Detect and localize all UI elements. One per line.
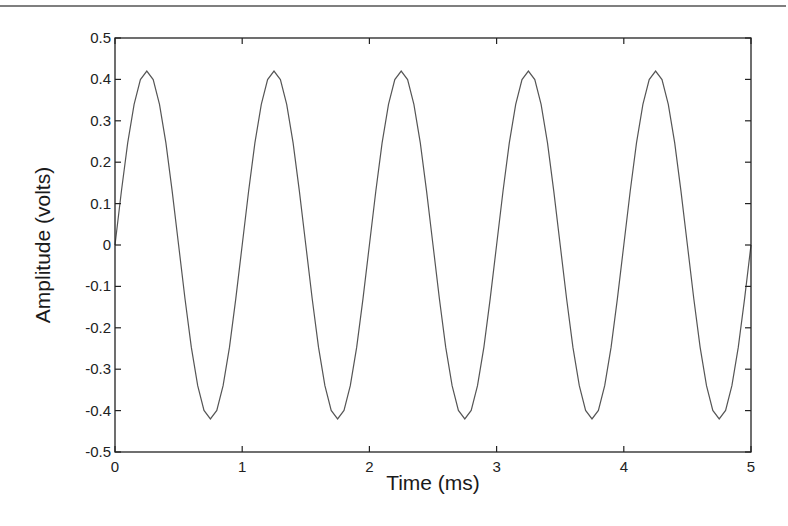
x-tick-label: 1 <box>238 458 246 475</box>
x-tick-label: 5 <box>747 458 755 475</box>
y-tick-label: 0.3 <box>90 112 111 129</box>
y-tick-label: 0.1 <box>90 195 111 212</box>
x-tick-label: 2 <box>365 458 373 475</box>
sine-series-line <box>115 71 751 419</box>
y-axis-title: Amplitude (volts) <box>31 167 54 323</box>
y-tick-label: 0.4 <box>90 70 111 87</box>
y-tick-label: -0.4 <box>85 402 111 419</box>
y-tick-label: -0.3 <box>85 360 111 377</box>
line-chart: 012345 0.50.40.30.20.10-0.1-0.2-0.3-0.4-… <box>0 0 788 526</box>
y-tick-label: -0.5 <box>85 443 111 460</box>
y-tick-label: 0.5 <box>90 29 111 46</box>
y-tick-label: 0 <box>103 236 111 253</box>
x-tick-label: 3 <box>492 458 500 475</box>
x-axis-title: Time (ms) <box>386 471 480 494</box>
x-tick-label: 4 <box>620 458 628 475</box>
y-tick-label: 0.2 <box>90 153 111 170</box>
x-tick-label: 0 <box>111 458 119 475</box>
y-axis-ticks: 0.50.40.30.20.10-0.1-0.2-0.3-0.4-0.5 <box>85 29 751 460</box>
y-tick-label: -0.1 <box>85 277 111 294</box>
plot-area: 012345 0.50.40.30.20.10-0.1-0.2-0.3-0.4-… <box>85 29 755 475</box>
y-tick-label: -0.2 <box>85 319 111 336</box>
x-axis-ticks: 012345 <box>111 38 755 475</box>
